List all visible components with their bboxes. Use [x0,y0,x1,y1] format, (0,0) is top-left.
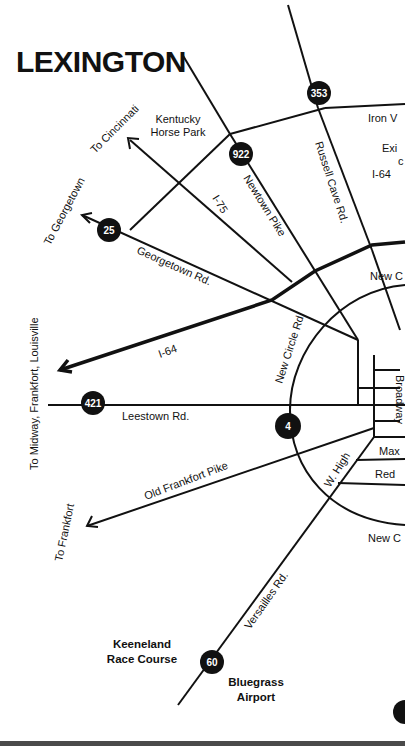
shield-4: 4 [275,413,301,439]
to-midway-label: To Midway, Frankfort, Louisville [28,317,40,470]
iron-works-road-east [325,104,405,108]
broadway-label: Broadway [394,375,406,424]
maxwell-label: Max [379,445,400,457]
landmark-airport: Bluegrass Airport [228,676,284,703]
new-circle-se-label: New C [368,532,401,544]
versailles-label: Versailles Rd. [242,569,290,631]
exit-note: Exi c I-64 [372,142,404,180]
shield-25: 25 [97,218,121,242]
to-georgetown-label: To Georgetown [41,175,87,247]
svg-text:25: 25 [103,225,115,236]
svg-text:Race Course: Race Course [107,653,177,665]
shield-922: 922 [229,142,253,166]
georgetown-road [82,215,358,340]
svg-text:c: c [398,155,404,167]
russell-cave-label: Russell Cave Rd. [313,140,351,225]
i64-highway [60,242,405,370]
svg-text:I-64: I-64 [372,168,391,180]
svg-text:Horse Park: Horse Park [150,126,206,138]
lexington-map: LEXINGTON 353 [0,0,418,752]
svg-text:4: 4 [285,421,291,432]
shield-partial [393,700,405,724]
svg-text:922: 922 [233,149,250,160]
svg-text:Bluegrass: Bluegrass [228,676,284,688]
svg-text:Kentucky: Kentucky [155,113,201,125]
svg-text:Exi: Exi [382,142,397,154]
shield-353: 353 [307,81,331,105]
i64-label: I-64 [157,342,179,360]
georgetown-rd-label: Georgetown Rd. [135,244,213,288]
to-cincinnati-label: To Cincinnati [88,102,141,155]
landmark-keeneland: Keeneland Race Course [107,638,177,665]
new-circle-ne-label: New C [370,270,403,282]
svg-text:421: 421 [85,398,102,409]
newtown-pike-label: Newtown Pike [241,173,288,238]
to-frankfort-label: To Frankfort [52,503,76,563]
iron-works-label: Iron V [368,112,398,124]
bottom-rule [0,741,405,746]
shield-421: 421 [81,391,105,415]
map-title: LEXINGTON [16,45,186,78]
landmark-horse-park: Kentucky Horse Park [150,113,206,138]
leestown-label: Leestown Rd. [122,410,189,422]
shield-60: 60 [200,650,224,674]
svg-text:60: 60 [206,657,218,668]
frankfort-arrow-icon [87,516,98,527]
svg-text:Keeneland: Keeneland [113,638,171,650]
new-circle-rd-label: New Circle Rd. [272,311,306,384]
svg-text:353: 353 [311,88,328,99]
red-label: Red [375,468,395,480]
svg-text:Airport: Airport [237,691,276,703]
iron-works-road [230,108,325,134]
old-frankfort-label: Old Frankfort Pike [142,459,229,502]
